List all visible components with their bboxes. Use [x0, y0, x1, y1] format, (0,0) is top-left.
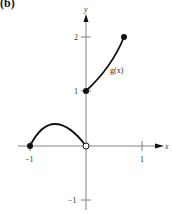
closed-dot-end — [121, 34, 127, 40]
curve-left-arch — [30, 124, 86, 146]
closed-dot-0-1 — [83, 88, 89, 94]
curve-label-gx: g(x) — [110, 66, 124, 75]
x-axis-arrow-icon — [155, 144, 164, 149]
curve-right-increasing — [86, 37, 124, 91]
closed-dot-neg1-0 — [27, 143, 33, 149]
y-tick-label-1: 1 — [74, 87, 78, 96]
x-tick-label-1: 1 — [140, 155, 144, 164]
graph-of-g: 2 1 −1 −1 1 y x g(x) — [0, 0, 172, 214]
x-axis-label: x — [164, 142, 169, 151]
y-axis-label: y — [83, 5, 88, 14]
y-tick-label-2: 2 — [74, 33, 78, 42]
x-tick-label-neg1: −1 — [25, 155, 34, 164]
y-axis-arrow-icon — [84, 14, 89, 22]
open-dot-origin — [83, 143, 89, 149]
y-tick-label-neg1: −1 — [68, 196, 77, 205]
